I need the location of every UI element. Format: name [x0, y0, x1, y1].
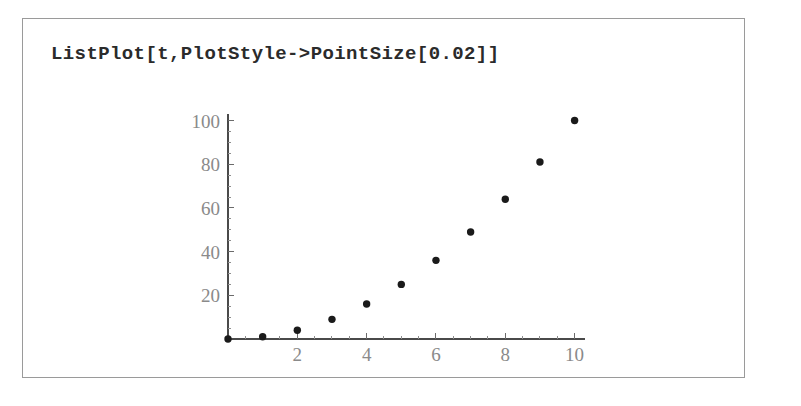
data-point	[502, 195, 509, 202]
data-point	[571, 117, 578, 124]
data-point	[259, 333, 266, 340]
data-point	[467, 228, 474, 235]
y-tick-label: 40	[201, 242, 220, 263]
y-axis-tick-labels: 20406080100	[192, 111, 221, 307]
data-point	[328, 316, 335, 323]
y-axis-major-ticks	[228, 121, 234, 296]
y-tick-label: 60	[201, 198, 220, 219]
y-tick-label: 20	[201, 285, 220, 306]
x-axis-major-ticks	[297, 333, 574, 339]
data-points	[224, 117, 578, 343]
data-point	[432, 257, 439, 264]
x-tick-label: 6	[431, 344, 441, 364]
input-cell-expression: ListPlot[t,PlotStyle->PointSize[0.02]]	[51, 43, 499, 65]
y-tick-label: 80	[201, 154, 220, 175]
y-axis-group: 20406080100	[192, 111, 235, 339]
x-tick-label: 10	[565, 344, 584, 364]
data-point	[536, 158, 543, 165]
data-point	[363, 300, 370, 307]
scatter-plot-svg: 20406080100 246810	[163, 94, 603, 364]
data-point	[224, 335, 231, 342]
x-tick-label: 4	[362, 344, 372, 364]
data-point	[398, 281, 405, 288]
x-tick-label: 8	[501, 344, 511, 364]
notebook-page: ListPlot[t,PlotStyle->PointSize[0.02]] 2…	[0, 0, 801, 406]
listplot-graphic: 20406080100 246810	[163, 94, 603, 364]
x-tick-label: 2	[293, 344, 303, 364]
x-axis-group: 246810	[228, 333, 585, 364]
notebook-cell-frame: ListPlot[t,PlotStyle->PointSize[0.02]] 2…	[22, 18, 745, 378]
y-tick-label: 100	[192, 111, 221, 132]
data-point	[294, 327, 301, 334]
x-axis-tick-labels: 246810	[293, 344, 585, 364]
